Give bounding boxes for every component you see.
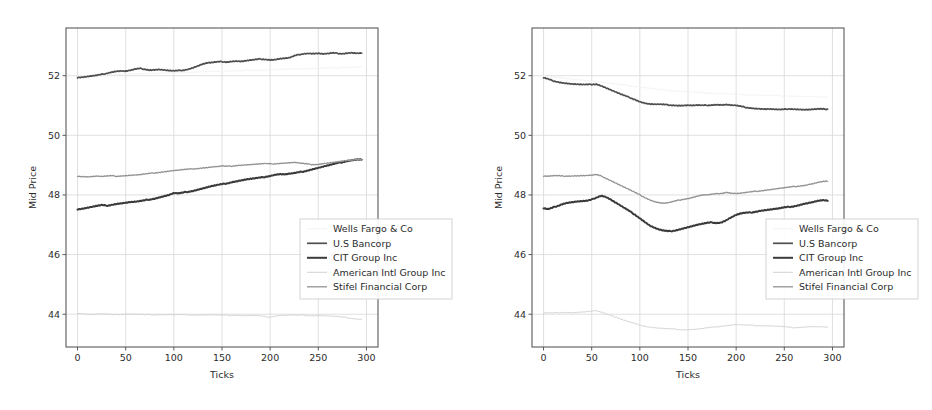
svg-text:150: 150: [679, 352, 697, 363]
svg-text:0: 0: [541, 352, 547, 363]
svg-text:50: 50: [120, 352, 132, 363]
svg-text:150: 150: [213, 352, 231, 363]
svg-text:CIT Group Inc: CIT Group Inc: [799, 252, 863, 263]
svg-text:300: 300: [823, 352, 841, 363]
svg-text:U.S Bancorp: U.S Bancorp: [799, 238, 857, 249]
line-chart-right[interactable]: 0501001502002503004446485052TicksMid Pri…: [466, 0, 932, 410]
svg-text:200: 200: [727, 352, 745, 363]
svg-text:300: 300: [357, 352, 375, 363]
svg-text:50: 50: [48, 130, 60, 141]
svg-text:46: 46: [514, 249, 526, 260]
svg-text:52: 52: [514, 70, 526, 81]
svg-text:American Intl Group Inc: American Intl Group Inc: [799, 267, 911, 278]
svg-text:Stifel Financial Corp: Stifel Financial Corp: [333, 281, 427, 292]
svg-text:100: 100: [631, 352, 649, 363]
svg-text:Mid Price: Mid Price: [493, 166, 504, 209]
svg-text:U.S Bancorp: U.S Bancorp: [333, 238, 391, 249]
svg-text:CIT Group Inc: CIT Group Inc: [333, 252, 397, 263]
svg-text:48: 48: [48, 189, 60, 200]
chart-panel-right: 0501001502002503004446485052TicksMid Pri…: [466, 0, 932, 410]
svg-text:100: 100: [165, 352, 183, 363]
matplotlib-figure: 0501001502002503004446485052TicksMid Pri…: [0, 0, 932, 410]
svg-text:250: 250: [309, 352, 327, 363]
svg-text:50: 50: [514, 130, 526, 141]
svg-text:44: 44: [48, 309, 60, 320]
svg-text:52: 52: [48, 70, 60, 81]
svg-text:Ticks: Ticks: [675, 369, 700, 380]
svg-text:46: 46: [48, 249, 60, 260]
svg-text:48: 48: [514, 189, 526, 200]
svg-text:Stifel Financial Corp: Stifel Financial Corp: [799, 281, 893, 292]
svg-text:American Intl Group Inc: American Intl Group Inc: [333, 267, 445, 278]
svg-text:50: 50: [586, 352, 598, 363]
svg-text:200: 200: [261, 352, 279, 363]
svg-text:Ticks: Ticks: [209, 369, 234, 380]
svg-text:Mid Price: Mid Price: [27, 166, 38, 209]
svg-text:Wells Fargo & Co: Wells Fargo & Co: [799, 223, 879, 234]
chart-panel-left: 0501001502002503004446485052TicksMid Pri…: [0, 0, 466, 410]
svg-text:250: 250: [775, 352, 793, 363]
svg-text:Wells Fargo & Co: Wells Fargo & Co: [333, 223, 413, 234]
svg-text:0: 0: [75, 352, 81, 363]
svg-text:44: 44: [514, 309, 526, 320]
line-chart-left[interactable]: 0501001502002503004446485052TicksMid Pri…: [0, 0, 466, 410]
